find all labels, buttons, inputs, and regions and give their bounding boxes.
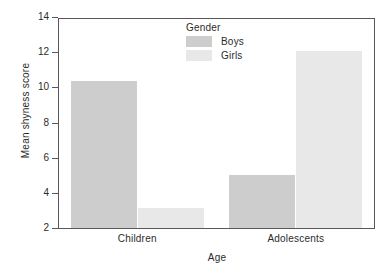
legend-swatch-boys <box>186 36 212 47</box>
y-axis-tick-label: 6 <box>43 152 49 163</box>
x-axis-category-label: Children <box>77 233 197 244</box>
x-axis-title: Age <box>58 252 376 263</box>
y-axis-tick-label: 4 <box>43 187 49 198</box>
legend-swatch-girls <box>186 50 212 61</box>
y-axis-tick-label: 10 <box>38 81 49 92</box>
y-axis-title: Mean shyness score <box>20 21 31 201</box>
legend-item-girls: Girls <box>186 50 244 61</box>
y-axis-tick-mark <box>52 123 58 124</box>
bar-girls-children <box>138 208 204 228</box>
bar-girls-adolescents <box>296 51 362 228</box>
bar-chart-figure: Mean shyness score 2468101214 ChildrenAd… <box>0 0 391 270</box>
y-axis-tick-label: 2 <box>43 222 49 233</box>
legend-item-boys: Boys <box>186 36 244 47</box>
y-axis-tick-mark <box>52 228 58 229</box>
y-axis-tick-mark <box>52 193 58 194</box>
legend-label: Boys <box>221 36 244 47</box>
x-axis-category-label: Adolescents <box>236 233 356 244</box>
y-axis-tick-mark <box>52 87 58 88</box>
y-axis-tick-label: 14 <box>38 11 49 22</box>
legend: Gender BoysGirls <box>186 22 244 64</box>
legend-title: Gender <box>186 22 244 33</box>
y-axis-tick-mark <box>52 158 58 159</box>
legend-label: Girls <box>221 50 243 61</box>
y-axis-tick-mark <box>52 52 58 53</box>
y-axis-tick-label: 12 <box>38 46 49 57</box>
legend-entries: BoysGirls <box>186 36 244 61</box>
y-axis-tick-mark <box>52 17 58 18</box>
bar-boys-children <box>71 81 137 228</box>
bar-boys-adolescents <box>229 175 295 228</box>
y-axis-tick-label: 8 <box>43 117 49 128</box>
